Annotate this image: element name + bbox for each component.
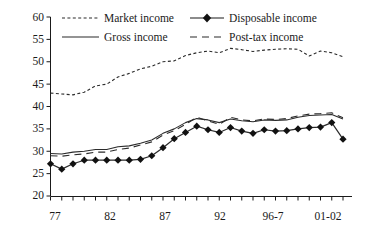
data-point <box>328 119 335 126</box>
legend-keys <box>62 13 224 37</box>
series-markers-disposable-income <box>47 119 347 173</box>
data-point <box>137 156 144 163</box>
data-point <box>47 160 54 167</box>
legend-key-disposable-marker <box>203 13 211 22</box>
data-point <box>294 125 301 132</box>
data-point <box>114 157 121 164</box>
series-line-gross-income <box>51 115 344 154</box>
data-point <box>182 129 189 136</box>
data-point <box>283 127 290 134</box>
data-point <box>272 128 279 135</box>
data-point <box>339 136 346 143</box>
axes <box>47 17 353 201</box>
data-point <box>261 126 268 133</box>
data-point <box>126 157 133 164</box>
data-point <box>238 128 245 135</box>
data-point <box>103 157 110 164</box>
series-line-market-income <box>51 48 344 95</box>
data-point <box>193 123 200 130</box>
plot-area <box>0 0 370 235</box>
data-point <box>317 123 324 130</box>
x-axis-ticks <box>51 197 344 201</box>
data-point <box>58 166 65 173</box>
data-point <box>227 124 234 131</box>
gini-coefficient-chart: Gini coefficient (%) 60 55 50 45 40 35 3… <box>0 0 370 235</box>
data-point <box>81 157 88 164</box>
data-point <box>69 160 76 167</box>
data-point <box>92 157 99 164</box>
data-series-layer <box>47 48 347 172</box>
y-axis-ticks <box>47 17 51 196</box>
data-point <box>204 126 211 133</box>
data-point <box>216 129 223 136</box>
data-point <box>306 124 313 131</box>
data-point <box>249 130 256 137</box>
